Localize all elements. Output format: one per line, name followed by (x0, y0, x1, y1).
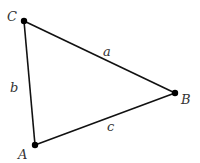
vertex-c-dot (21, 18, 27, 24)
side-a (24, 21, 175, 93)
vertex-b-dot (172, 90, 178, 96)
vertex-b-label: B (180, 92, 191, 107)
triangle-diagram: C A B a b c (0, 0, 200, 163)
vertex-c-label: C (7, 9, 17, 24)
side-b-label: b (10, 80, 18, 95)
side-a-label: a (103, 44, 111, 59)
vertex-a-dot (32, 142, 38, 148)
vertex-a-label: A (17, 147, 27, 162)
side-c (35, 93, 175, 145)
side-c-label: c (107, 119, 115, 134)
side-b (24, 21, 35, 145)
